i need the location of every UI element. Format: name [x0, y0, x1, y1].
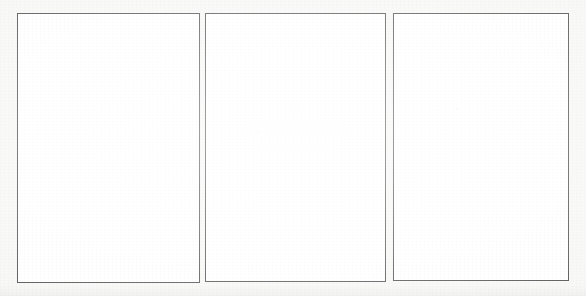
blank-panel-2[interactable]	[205, 13, 386, 282]
scan-bottom-band	[0, 285, 586, 296]
blank-panel-3-content	[394, 14, 568, 280]
blank-panel-1-content	[18, 14, 199, 282]
blank-panel-2-content	[206, 14, 385, 281]
blank-panel-1[interactable]	[17, 13, 200, 283]
scan-canvas	[0, 0, 586, 296]
blank-panel-3[interactable]	[393, 13, 569, 281]
